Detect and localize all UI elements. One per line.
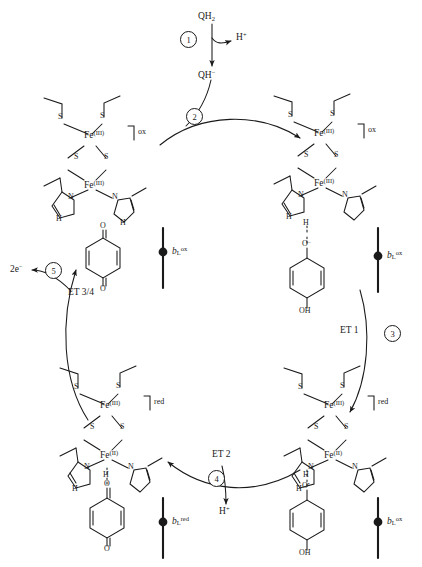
product-label-proton-top: H+ xyxy=(236,32,247,42)
cluster-bottom-left-sulfur-4: S xyxy=(120,423,124,431)
heme-label-bottom-left: bLred xyxy=(172,516,189,527)
diagram-canvas: QH2 H+ QH− 2e− H+ 1 2 3 4 5 ET 1 ET 2 ET… xyxy=(0,0,422,567)
cluster-top-right-fe-bottom: Fe(III) xyxy=(314,178,334,188)
et-1-label: ET 1 xyxy=(340,326,359,336)
cycle-arc-bottom xyxy=(168,462,300,488)
cluster-bottom-right-sulfur-1: S xyxy=(298,383,302,391)
cluster-bottom-left-nitrogen-1: N xyxy=(84,463,90,471)
step-marker-3[interactable]: 3 xyxy=(384,325,401,342)
cluster-top-right-nh-2: H xyxy=(303,219,309,227)
cluster-bottom-left-fe-bottom: Fe(II) xyxy=(100,450,118,460)
quinolate-middle-right-bottom-hydroxyl: OH xyxy=(299,307,311,315)
cluster-top-left-sulfur-3: S xyxy=(74,153,78,161)
cluster-top-right-sulfur-4: S xyxy=(334,151,338,159)
cluster-top-right-nitrogen-1: N xyxy=(298,191,304,199)
heme-label-bottom-right: bLox xyxy=(387,516,402,527)
quinone-middle-left-vector xyxy=(86,230,120,286)
cluster-top-right-state: ox xyxy=(368,126,376,134)
cluster-top-right-sulfur-1: S xyxy=(288,111,292,119)
cluster-top-left-state: ox xyxy=(138,128,146,136)
quinone-middle-left-top-oxygen: O xyxy=(100,222,106,230)
substrate-label-qh2: QH2 xyxy=(198,12,215,22)
cluster-bottom-left-nh-2: H xyxy=(103,471,109,479)
cluster-top-right-nh-1: H xyxy=(286,213,292,221)
step-marker-5[interactable]: 5 xyxy=(45,262,62,279)
cluster-bottom-left-sulfur-2: S xyxy=(116,382,120,390)
heme-dot-bottom-right xyxy=(374,518,383,527)
cluster-top-left-nitrogen-2: N xyxy=(112,193,118,201)
cluster-top-right-nitrogen-2: N xyxy=(342,191,348,199)
cluster-bottom-right-nh-1: H xyxy=(296,485,302,493)
et-2-label: ET 2 xyxy=(212,450,231,460)
intermediate-label-quinolate: QH− xyxy=(198,70,215,80)
arrow-proton-release-top xyxy=(212,38,231,43)
cluster-bottom-left-sulfur-3: S xyxy=(90,423,94,431)
cluster-top-left-nh-2: H xyxy=(120,219,126,227)
step-marker-2[interactable]: 2 xyxy=(186,108,203,125)
cluster-top-left-sulfur-4: S xyxy=(104,153,108,161)
cluster-bottom-right-fe-top: Fe(III) xyxy=(324,400,344,410)
cluster-top-left-fe-top: Fe(III) xyxy=(84,130,104,140)
heme-label-middle-left: bLox xyxy=(172,246,187,257)
quinolate-middle-right-top-oxygen: O− xyxy=(302,240,311,248)
cluster-top-left-nh-1: H xyxy=(56,215,62,223)
quinone-bottom-left-top-oxygen: O xyxy=(104,480,110,488)
quinone-middle-left-bottom-oxygen: O xyxy=(100,285,106,293)
cluster-top-left-sulfur-1: S xyxy=(58,113,62,121)
cluster-top-right-fe-top: Fe(III) xyxy=(314,128,334,138)
cluster-bottom-right-nitrogen-2: N xyxy=(352,463,358,471)
cluster-bottom-right-state: red xyxy=(378,398,388,406)
cluster-bottom-left-sulfur-1: S xyxy=(74,383,78,391)
cluster-bottom-left-nitrogen-2: N xyxy=(128,463,134,471)
product-label-two-electrons: 2e− xyxy=(10,264,23,274)
cluster-top-right-sulfur-3: S xyxy=(304,151,308,159)
heme-dot-bottom-left xyxy=(159,518,168,527)
step-marker-1[interactable]: 1 xyxy=(180,31,197,48)
cluster-bottom-right-sulfur-2: S xyxy=(340,382,344,390)
et-3-4-label: ET 3/4 xyxy=(68,288,94,298)
heme-dot-middle-right xyxy=(374,252,383,261)
cycle-arc-top xyxy=(160,119,300,145)
heme-label-middle-right: bLox xyxy=(387,250,402,261)
quinone-bottom-left-bottom-oxygen: O xyxy=(104,545,110,553)
heme-dot-middle-left xyxy=(159,248,168,257)
semiquinone-bottom-right-bottom-hydroxyl: OH xyxy=(299,549,311,557)
cluster-bottom-left-state: red xyxy=(154,398,164,406)
product-label-proton-bottom: H+ xyxy=(219,506,230,516)
cluster-top-left-nitrogen-1: N xyxy=(68,193,74,201)
cluster-bottom-right-sulfur-4: S xyxy=(344,423,348,431)
cluster-bottom-left-nh-1: H xyxy=(72,485,78,493)
cluster-bottom-right-fe-bottom: Fe(II) xyxy=(324,450,342,460)
cluster-top-left-fe-bottom: Fe(III) xyxy=(84,180,104,190)
step-marker-4[interactable]: 4 xyxy=(208,470,225,487)
cluster-bottom-left-fe-top: Fe(III) xyxy=(100,400,120,410)
semiquinone-bottom-right-top-oxygen: O• xyxy=(302,482,310,490)
cluster-bottom-right-nh-2: H xyxy=(303,471,309,479)
cycle-arc-right xyxy=(350,290,367,412)
cluster-top-right-sulfur-2: S xyxy=(330,110,334,118)
cluster-bottom-right-sulfur-3: S xyxy=(314,423,318,431)
cluster-top-left-sulfur-2: S xyxy=(100,112,104,120)
